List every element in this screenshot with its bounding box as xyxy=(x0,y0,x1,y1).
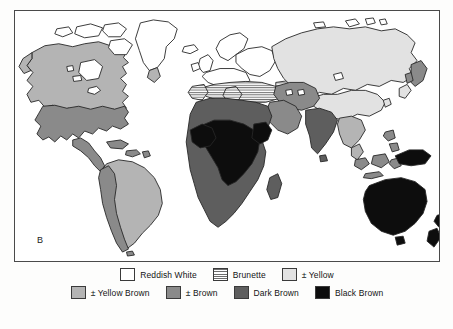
legend-row-1: Reddish White Brunette ± Yellow xyxy=(14,268,440,281)
region-canada-arctic-island-c xyxy=(55,27,73,37)
region-philippines-south xyxy=(389,143,399,152)
panel-label: B xyxy=(37,235,43,245)
region-indochina xyxy=(337,116,365,148)
legend-swatch-icon xyxy=(282,268,297,281)
region-brunette-iberia xyxy=(188,84,208,100)
region-sumatra xyxy=(354,158,369,170)
legend-item-reddish-white[interactable]: Reddish White xyxy=(120,268,197,281)
region-africa-horn-black xyxy=(252,122,272,144)
region-caribbean-cuba xyxy=(107,140,129,149)
region-madagascar xyxy=(267,174,282,200)
legend-swatch-icon xyxy=(234,286,249,299)
region-central-america xyxy=(73,138,105,172)
legend-row-2: ± Yellow Brown ± Brown Dark Brown Black … xyxy=(14,286,440,299)
region-caribbean-small-isles xyxy=(142,151,150,158)
legend-item-brown[interactable]: ± Brown xyxy=(166,286,218,299)
region-arctic-islands-siberia-d xyxy=(314,22,326,28)
region-india xyxy=(306,108,338,154)
region-canada-arctic-island-b xyxy=(103,23,127,37)
region-arctic-islands-siberia-c xyxy=(379,19,387,25)
region-siberia-lake-baikal xyxy=(333,73,343,81)
legend-swatch-icon xyxy=(120,268,135,281)
legend-item-brunette[interactable]: Brunette xyxy=(213,268,266,281)
legend-item-label: ± Yellow Brown xyxy=(91,288,150,298)
legend-item-yellow-brown[interactable]: ± Yellow Brown xyxy=(71,286,150,299)
region-australia xyxy=(363,178,427,236)
legend-swatch-icon xyxy=(71,286,86,299)
region-british-isles-main xyxy=(198,55,213,73)
region-java xyxy=(363,172,383,179)
region-british-isles-ireland xyxy=(191,63,200,72)
legend-item-yellow[interactable]: ± Yellow xyxy=(282,268,334,281)
legend-swatch-icon xyxy=(315,286,330,299)
region-sri-lanka xyxy=(320,155,328,162)
region-baffin-island xyxy=(109,39,133,55)
legend-swatch-icon xyxy=(166,286,181,299)
region-lake-small-a xyxy=(67,66,74,72)
region-new-guinea xyxy=(395,150,431,166)
region-philippines xyxy=(383,130,395,141)
world-map-svg xyxy=(15,11,439,261)
region-caribbean-hispaniola xyxy=(125,150,140,157)
region-iceland xyxy=(182,45,198,54)
region-greenland xyxy=(135,20,177,71)
region-arctic-islands-siberia-a xyxy=(345,19,359,27)
region-japan xyxy=(399,84,411,98)
region-korea xyxy=(383,98,391,107)
region-central-asia-lake-b xyxy=(298,89,305,95)
region-new-zealand-north xyxy=(434,213,439,227)
legend-item-label: ± Brown xyxy=(186,288,218,298)
legend-item-label: Reddish White xyxy=(140,270,197,280)
legend-swatch-icon xyxy=(213,268,228,281)
region-usa-mexico xyxy=(35,105,129,142)
legend-item-label: Dark Brown xyxy=(254,288,299,298)
legend-item-label: ± Yellow xyxy=(302,270,334,280)
map-legend: Reddish White Brunette ± Yellow ± Yellow… xyxy=(14,268,440,304)
region-tasmania xyxy=(395,236,405,245)
region-lake-small-b xyxy=(73,75,82,81)
legend-item-dark-brown[interactable]: Dark Brown xyxy=(234,286,299,299)
region-canada-arctic-island-a xyxy=(75,24,103,38)
region-tierra-del-fuego xyxy=(126,251,134,256)
legend-item-label: Brunette xyxy=(233,270,266,280)
legend-item-black-brown[interactable]: Black Brown xyxy=(315,286,383,299)
legend-item-label: Black Brown xyxy=(335,288,383,298)
region-arctic-islands-siberia-b xyxy=(365,18,375,25)
skin-color-distribution-figure: B Reddish White Brunette ± Yellow ± Yell… xyxy=(0,0,453,329)
region-new-zealand-south xyxy=(427,228,439,247)
region-central-asia-lake-a xyxy=(286,89,293,95)
region-borneo xyxy=(371,154,389,168)
world-map-panel: B xyxy=(14,10,440,262)
